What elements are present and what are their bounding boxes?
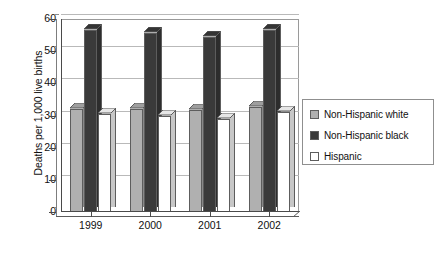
bar[interactable] [84,25,97,212]
y-axis-tick-mark [49,83,56,84]
bar-top-skew [217,113,235,119]
bar-front-face [277,112,290,212]
bar-front-face [189,110,202,212]
plot-area [61,19,299,212]
y-axis-tick-mark [49,212,56,213]
x-axis-tick-mark [91,212,92,217]
bar[interactable] [217,114,230,212]
legend-item-label: Non-Hispanic white [324,109,408,120]
x-axis-tick-label: 2002 [239,219,299,231]
bar-top-skew [158,110,176,116]
bar-front-face [144,33,157,212]
bar[interactable] [249,102,262,212]
bar-top-skew [98,108,116,114]
y-axis-tick-label: 20 [12,141,56,153]
bar-front-face [98,114,111,212]
x-axis-tick-label: 2000 [120,219,180,231]
y-axis-tick-mark [49,19,56,20]
plot-floor-line [56,216,299,217]
bar[interactable] [277,107,290,212]
bar-side-face [171,111,176,208]
y-axis-tick-label: 10 [12,173,56,185]
y-axis-tick-mark-depth [54,14,59,15]
bar-top-skew [277,106,295,112]
bar-side-face [111,109,116,207]
legend-swatch-icon [310,152,319,161]
bar-top-skew [263,24,281,30]
y-axis-tick-label: 40 [12,76,56,88]
bar-group [121,19,181,212]
x-axis-tick-label: 1999 [61,219,121,231]
bar[interactable] [98,109,111,212]
bar-front-face [158,116,171,213]
bar-group [240,19,300,212]
bar-top-skew [144,27,162,33]
y-axis-line [61,19,62,212]
bar[interactable] [203,32,216,212]
bar[interactable] [263,25,276,212]
chart-legend: Non-Hispanic whiteNon-Hispanic blackHisp… [302,99,434,165]
bar-top-skew [84,24,102,30]
bar-front-face [203,37,216,212]
bar-front-face [217,119,230,212]
y-axis-tick-mark [49,180,56,181]
bar-front-face [70,109,83,212]
y-axis-tick-mark [49,51,56,52]
legend-item-label: Non-Hispanic black [324,130,408,141]
x-axis-tick-mark [269,212,270,217]
bar-top-skew [203,31,221,37]
legend-swatch-icon [310,110,319,119]
x-axis-labels: 1999200020012002 [61,219,299,239]
y-axis-ticks: 0102030405060 [0,19,56,212]
bar[interactable] [130,104,143,212]
x-axis-line [61,211,299,212]
bar-chart-figure: Deaths per 1,000 live births 01020304050… [0,0,446,254]
bar-front-face [84,30,97,212]
legend-swatch-icon [310,131,319,140]
bar-group [61,19,121,212]
y-axis-tick-label: 60 [12,12,56,24]
bar[interactable] [144,28,157,212]
plot-corner-diagonal [293,211,301,217]
bar-group [180,19,240,212]
legend-item[interactable]: Non-Hispanic white [310,109,408,120]
bar-front-face [130,109,143,212]
bar[interactable] [70,104,83,212]
gridline [61,14,299,15]
legend-item[interactable]: Hispanic [310,151,362,162]
legend-item[interactable]: Non-Hispanic black [310,130,408,141]
bar-side-face [290,107,295,207]
bar-side-face [230,114,235,207]
y-axis-tick-label: 30 [12,109,56,121]
y-axis-tick-mark [49,148,56,149]
bar[interactable] [189,105,202,212]
y-axis-tick-label: 0 [12,205,56,217]
y-axis-tick-label: 50 [12,44,56,56]
legend-item-label: Hispanic [324,151,362,162]
x-axis-tick-mark [150,212,151,217]
x-axis-tick-label: 2001 [180,219,240,231]
bar-front-face [263,30,276,212]
x-axis-tick-mark [210,212,211,217]
y-axis-tick-mark [49,116,56,117]
bar-front-face [249,107,262,212]
bar[interactable] [158,111,171,213]
